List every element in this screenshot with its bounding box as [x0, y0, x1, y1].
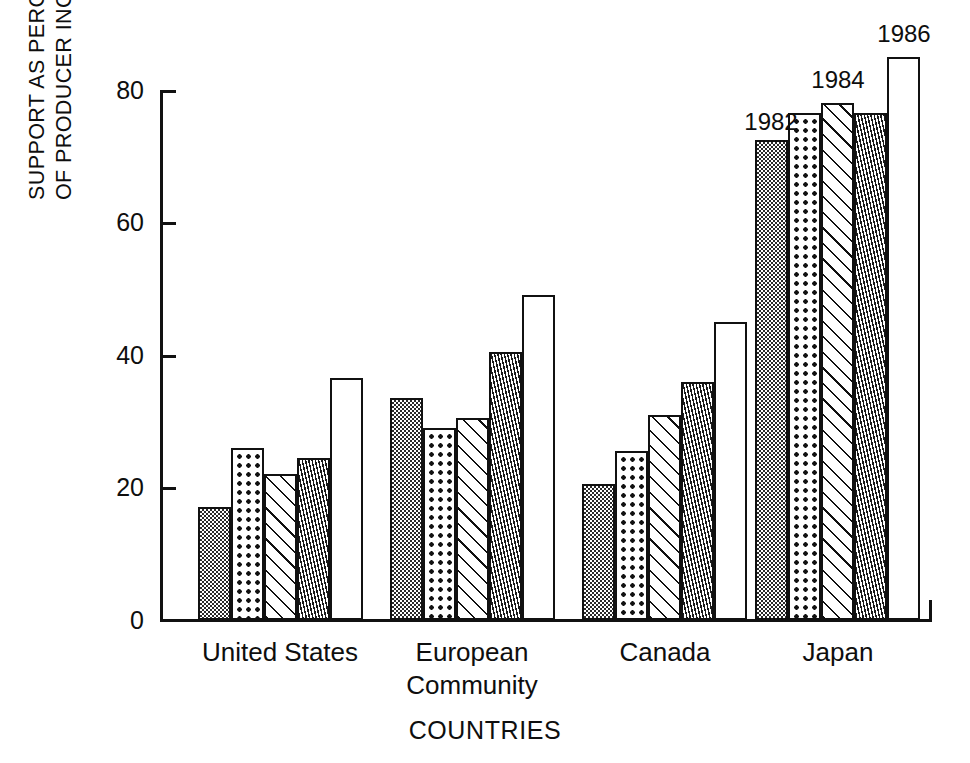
y-tick-40: [163, 355, 176, 358]
bar-european-community-1984: [456, 418, 489, 620]
bar-canada-1982: [582, 484, 615, 620]
y-tick-label-60: 60: [82, 210, 144, 235]
bar-japan-1983: [788, 113, 821, 620]
x-category-label-european-community-line-2: Community: [352, 669, 592, 702]
bar-canada-1984: [648, 415, 681, 620]
y-tick-label-40: 40: [82, 343, 144, 368]
y-tick-label-80: 80: [82, 78, 144, 103]
bar-canada-1986: [714, 322, 747, 620]
bar-european-community-1982: [390, 398, 423, 620]
bar-united-states-1986: [330, 378, 363, 620]
bar-european-community-1986: [522, 295, 555, 620]
x-category-label-japan-line-1: Japan: [803, 637, 874, 667]
annotation-year-1982: 1982: [716, 110, 826, 134]
bar-canada-1983: [615, 451, 648, 620]
bar-european-community-1985: [489, 352, 522, 620]
bar-japan-1985: [854, 113, 887, 620]
y-tick-20: [163, 487, 176, 490]
bar-japan-1982: [755, 140, 788, 620]
y-axis-title-line-2: OF PRODUCER INCOME: [51, 0, 78, 200]
bar-japan-1986: [887, 57, 920, 620]
x-axis-title: COUNTRIES: [0, 716, 970, 745]
bar-canada-1985: [681, 382, 714, 620]
bar-united-states-1983: [231, 448, 264, 620]
bar-united-states-1982: [198, 507, 231, 620]
x-category-label-european-community-line-1: European: [416, 637, 529, 667]
x-category-label-canada-line-1: Canada: [619, 637, 710, 667]
bar-united-states-1985: [297, 458, 330, 620]
y-axis-title: SUPPORT AS PERCENTAGE OF PRODUCER INCOME: [24, 0, 84, 200]
annotation-year-1986: 1986: [849, 22, 959, 46]
x-axis-end-cap: [929, 600, 932, 622]
y-tick-label-20: 20: [82, 475, 144, 500]
chart-figure: SUPPORT AS PERCENTAGE OF PRODUCER INCOME…: [0, 0, 970, 763]
y-axis-title-line-1: SUPPORT AS PERCENTAGE: [24, 0, 51, 200]
bar-japan-1984: [821, 103, 854, 620]
bar-united-states-1984: [264, 474, 297, 620]
y-tick-label-0: 0: [82, 608, 144, 633]
annotation-year-1984: 1984: [783, 68, 893, 92]
x-category-label-united-states-line-1: United States: [202, 637, 358, 667]
bar-european-community-1983: [423, 428, 456, 620]
x-category-label-japan: Japan: [718, 636, 958, 669]
y-tick-60: [163, 222, 176, 225]
y-tick-80: [163, 90, 176, 93]
